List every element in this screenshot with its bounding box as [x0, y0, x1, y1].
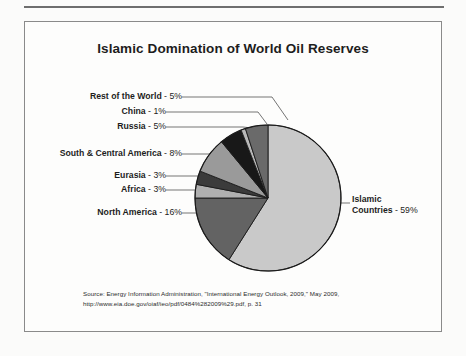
pie-label-north-america-pct: 16%: [165, 207, 182, 217]
pie-label-islamic-countries-name2: Countries: [352, 205, 393, 215]
pie-label-africa-pct: 3%: [153, 184, 166, 194]
pie-label-north-america-name: North America: [97, 207, 157, 217]
pie-label-china-pct: 1%: [153, 106, 166, 116]
pie-label-eurasia: Eurasia - 3%: [114, 171, 166, 180]
pie-label-russia: Russia - 5%: [117, 122, 166, 131]
pie-label-eurasia-sep: -: [146, 170, 154, 180]
pie-label-africa-name: Africa: [121, 184, 146, 194]
pie-label-south-central-america-pct: 8%: [169, 148, 182, 158]
pie-label-africa: Africa - 3%: [121, 185, 166, 194]
top-divider-rule: [24, 6, 444, 8]
pie-label-islamic-countries: Islamic Countries - 59%: [352, 194, 418, 216]
source-citation-line2: http://www.eia.doe.gov/oiaf/ieo/pdf/0484…: [83, 299, 413, 309]
pie-label-rest-of-the-world-sep: -: [162, 91, 170, 101]
pie-label-rest-of-the-world: Rest of the World - 5%: [90, 92, 182, 101]
pie-label-rest-of-the-world-name: Rest of the World: [90, 91, 162, 101]
chart-title: Islamic Domination of World Oil Reserves: [24, 41, 442, 56]
pie-label-south-central-america: South & Central America - 8%: [60, 149, 182, 158]
pie-label-islamic-countries-line1: Islamic: [352, 194, 418, 205]
pie-label-islamic-countries-pct: 59%: [400, 205, 417, 215]
pie-chart: [194, 119, 344, 277]
pie-label-russia-name: Russia: [117, 121, 146, 131]
pie-label-china-sep: -: [146, 106, 154, 116]
pie-label-eurasia-name: Eurasia: [114, 170, 145, 180]
pie-label-eurasia-pct: 3%: [153, 170, 166, 180]
pie-label-rest-of-the-world-pct: 5%: [169, 91, 182, 101]
pie-label-south-central-america-name: South & Central America: [60, 148, 162, 158]
pie-label-north-america: North America - 16%: [97, 208, 182, 217]
source-citation: Source: Energy Information Administratio…: [83, 289, 413, 308]
pie-label-islamic-countries-line2: Countries - 59%: [352, 205, 418, 216]
pie-label-china: China - 1%: [122, 107, 166, 116]
pie-label-south-central-america-sep: -: [162, 148, 170, 158]
pie-label-china-name: China: [122, 106, 146, 116]
pie-label-russia-pct: 5%: [153, 121, 166, 131]
source-citation-line1: Source: Energy Information Administratio…: [83, 289, 413, 299]
pie-label-islamic-countries-name1: Islamic: [352, 194, 381, 204]
figure-page: Islamic Domination of World Oil Reserves: [0, 0, 466, 356]
